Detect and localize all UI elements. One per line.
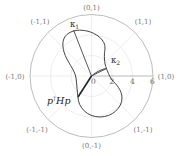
kappa2-label: κ2 bbox=[111, 55, 120, 66]
kappa1-label: κ1 bbox=[70, 19, 79, 30]
pthp-direction-line bbox=[78, 76, 92, 97]
kappa1-direction-line bbox=[74, 30, 92, 76]
dir-label-downleft: (-1,-1) bbox=[26, 126, 48, 134]
kappa2-direction-line bbox=[92, 69, 107, 77]
dir-label-downright: (1,-1) bbox=[134, 126, 153, 134]
tick-label-6: 6 bbox=[150, 77, 155, 86]
dir-label-up: (0,1) bbox=[83, 4, 100, 12]
dir-label-down: (0,-1) bbox=[82, 142, 101, 150]
dir-label-upright: (1,1) bbox=[135, 18, 152, 26]
dir-label-left: (-1,0) bbox=[6, 73, 25, 81]
polar-curvature-diagram: (0,1) (1,1) (1,0) (1,-1) (0,-1) (-1,-1) … bbox=[0, 0, 179, 156]
curvature-curve bbox=[63, 30, 122, 117]
dir-label-right: (1,0) bbox=[158, 73, 175, 81]
pthp-label: p⊺Hp bbox=[47, 95, 70, 107]
tick-label-4: 4 bbox=[130, 77, 135, 86]
dir-label-upleft: (-1,1) bbox=[31, 18, 50, 26]
tick-label-0: 0 bbox=[91, 77, 96, 86]
